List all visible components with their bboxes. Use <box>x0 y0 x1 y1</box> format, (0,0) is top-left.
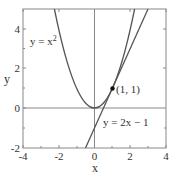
tangent-label: y = 2x − 1 <box>103 116 148 128</box>
x-tick-label: 2 <box>127 150 133 162</box>
tangent-point <box>110 86 114 90</box>
x-axis-label: x <box>92 161 98 175</box>
chart: -4 -2 0 2 4 4 2 0 -2 x y y = x2 (1, 1) y… <box>0 0 177 180</box>
point-label: (1, 1) <box>116 83 140 96</box>
y-tick-label: 2 <box>15 62 21 74</box>
y-tick-label: 4 <box>15 23 21 35</box>
x-tick-label: 4 <box>163 150 169 162</box>
y-axis-label: y <box>4 72 10 86</box>
y-tick-label: -2 <box>11 142 20 154</box>
y-tick-label: 0 <box>15 102 21 114</box>
parabola-label: y = x2 <box>30 34 57 47</box>
x-tick-label: -2 <box>54 150 63 162</box>
